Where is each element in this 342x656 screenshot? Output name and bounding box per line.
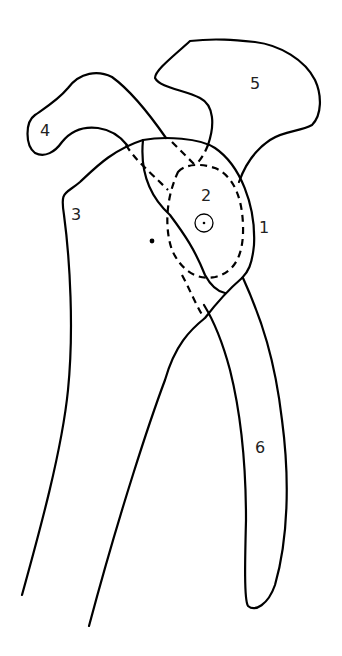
shoulder-diagram	[0, 0, 342, 656]
outline-5	[155, 39, 320, 182]
label-5: 5	[250, 76, 260, 92]
label-4: 4	[40, 123, 50, 139]
center-dot-marker	[203, 222, 206, 225]
dashed-ellipse	[167, 165, 243, 278]
label-6: 6	[255, 440, 265, 456]
dashed-line-lower	[182, 275, 204, 318]
dashed-line-top	[172, 142, 208, 165]
point-marker	[150, 239, 155, 244]
outline-3-left	[22, 138, 254, 595]
outline-4	[28, 73, 167, 155]
outline-2-curve	[142, 140, 225, 293]
label-1: 1	[259, 220, 269, 236]
label-2: 2	[201, 188, 211, 204]
label-3: 3	[71, 207, 81, 223]
